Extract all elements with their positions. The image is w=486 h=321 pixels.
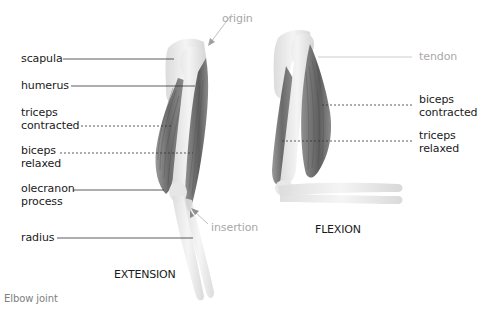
extension-title: EXTENSION bbox=[114, 268, 176, 281]
extension-arm-illustration bbox=[155, 39, 214, 301]
label-triceps-relaxed-line1: triceps bbox=[419, 129, 459, 142]
label-olecranon-process: olecranon process bbox=[21, 182, 75, 208]
label-biceps-relaxed-line2: relaxed bbox=[21, 157, 61, 170]
diagram-artwork bbox=[0, 0, 486, 321]
label-olecranon-line1: olecranon bbox=[21, 182, 75, 195]
label-biceps-contracted-line2: contracted bbox=[419, 106, 477, 119]
label-triceps-relaxed: triceps relaxed bbox=[419, 129, 459, 155]
label-biceps-relaxed: biceps relaxed bbox=[21, 144, 61, 170]
flexion-title: FLEXION bbox=[315, 223, 361, 236]
flexion-arm-illustration bbox=[272, 30, 403, 204]
label-triceps-relaxed-line2: relaxed bbox=[419, 142, 459, 155]
label-origin: origin bbox=[222, 12, 253, 25]
label-scapula: scapula bbox=[21, 52, 63, 65]
radius-bone-flex bbox=[280, 194, 403, 204]
label-radius: radius bbox=[21, 231, 54, 244]
label-insertion: insertion bbox=[211, 221, 258, 234]
label-biceps-contracted-line1: biceps bbox=[419, 93, 477, 106]
extension-leader-lines bbox=[57, 14, 232, 238]
label-triceps-contracted-line1: triceps bbox=[21, 106, 79, 119]
label-biceps-relaxed-line1: biceps bbox=[21, 144, 61, 157]
label-humerus: humerus bbox=[21, 79, 69, 92]
ulna-bone-flex bbox=[278, 183, 403, 196]
figure-caption: Elbow joint bbox=[4, 292, 58, 305]
origin-arrowhead bbox=[208, 38, 215, 46]
label-tendon: tendon bbox=[419, 50, 457, 63]
elbow-joint-diagram: scapula humerus triceps contracted bicep… bbox=[0, 0, 486, 321]
label-triceps-contracted-line2: contracted bbox=[21, 119, 79, 132]
label-triceps-contracted: triceps contracted bbox=[21, 106, 79, 132]
label-olecranon-line2: process bbox=[21, 195, 75, 208]
label-biceps-contracted: biceps contracted bbox=[419, 93, 477, 119]
